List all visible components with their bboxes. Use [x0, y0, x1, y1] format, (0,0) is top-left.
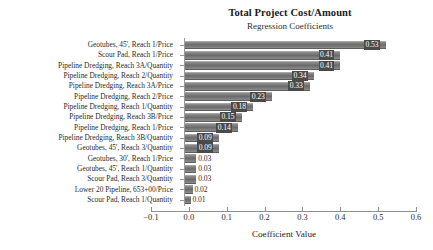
- x-axis-tick-label: 0.6: [411, 213, 421, 222]
- x-axis-tick: [416, 207, 417, 211]
- bar-value-label: 0.03: [198, 154, 211, 164]
- x-axis-tick-label: 0.3: [297, 213, 307, 222]
- x-axis-tick: [265, 207, 266, 211]
- bar-row[interactable]: 0.23: [151, 92, 416, 102]
- x-axis-tick: [378, 207, 379, 211]
- y-axis-tick: [180, 179, 184, 180]
- bar-value-label: 0.18: [231, 102, 247, 112]
- bar-value-label: 0.41: [319, 61, 335, 71]
- bar-value-label: 0.02: [195, 185, 208, 195]
- y-axis-tick: [180, 200, 184, 201]
- bar-row[interactable]: 0.03: [151, 164, 416, 174]
- x-axis-tick: [227, 207, 228, 211]
- bar-row[interactable]: 0.18: [151, 102, 416, 112]
- bar[interactable]: [185, 41, 386, 50]
- bar-row[interactable]: 0.34: [151, 71, 416, 81]
- bar-value-label: 0.53: [364, 40, 380, 50]
- y-axis-tick: [180, 117, 184, 118]
- plot-area: 0.530.410.410.340.330.230.180.150.140.09…: [151, 38, 416, 206]
- bar-row[interactable]: 0.53: [151, 40, 416, 50]
- chart-subtitle: Regression Coefficients: [155, 20, 425, 32]
- bar[interactable]: [185, 51, 340, 60]
- bar-row[interactable]: 0.41: [151, 61, 416, 71]
- bar-row[interactable]: 0.09: [151, 133, 416, 143]
- bar-row[interactable]: 0.03: [151, 154, 416, 164]
- bar-value-label: 0.03: [198, 174, 211, 184]
- x-axis-tick: [189, 207, 190, 211]
- x-axis-tick: [151, 207, 152, 211]
- y-axis-tick: [180, 55, 184, 56]
- regression-coefficients-bar-chart: Total Project Cost/Amount Regression Coe…: [0, 0, 433, 250]
- bar-value-label: 0.15: [220, 112, 236, 122]
- bar-row[interactable]: 0.14: [151, 123, 416, 133]
- y-axis-tick: [180, 76, 184, 77]
- x-axis-ticks: [151, 207, 417, 212]
- bar[interactable]: [185, 196, 191, 205]
- bar[interactable]: [185, 154, 196, 163]
- y-axis-tick: [180, 148, 184, 149]
- x-axis-title: Coefficient Value: [151, 229, 417, 239]
- x-axis-tick: [302, 207, 303, 211]
- y-axis-tick: [180, 158, 184, 159]
- bar-row[interactable]: 0.33: [151, 81, 416, 91]
- y-axis-tick: [180, 96, 184, 97]
- bar-value-label: 0.23: [250, 92, 266, 102]
- y-axis-tick: [180, 107, 184, 108]
- bar-row[interactable]: 0.01: [151, 195, 416, 205]
- bar-row[interactable]: 0.09: [151, 143, 416, 153]
- bar-row[interactable]: 0.41: [151, 50, 416, 60]
- x-axis-tick-label: 0.2: [259, 213, 269, 222]
- bar-value-label: 0.03: [198, 164, 211, 174]
- x-axis-tick: [340, 207, 341, 211]
- bar-value-label: 0.09: [197, 133, 213, 143]
- bar-value-label: 0.33: [288, 81, 304, 91]
- y-axis-tick: [180, 65, 184, 66]
- x-axis-tick-label: 0.4: [335, 213, 345, 222]
- x-axis-tick-label: 0.0: [184, 213, 194, 222]
- y-axis-tick: [180, 45, 184, 46]
- y-axis-tick: [180, 189, 184, 190]
- bar-rows: 0.530.410.410.340.330.230.180.150.140.09…: [151, 40, 416, 205]
- x-axis-tick-label: 0.1: [221, 213, 231, 222]
- bar-row[interactable]: 0.02: [151, 185, 416, 195]
- chart-title-block: Total Project Cost/Amount Regression Coe…: [155, 6, 425, 32]
- y-axis-tick: [180, 138, 184, 139]
- bar[interactable]: [185, 185, 193, 194]
- bar-value-label: 0.09: [197, 143, 213, 153]
- y-axis-tick: [180, 86, 184, 87]
- x-axis-tick-labels: −0.10.00.10.20.30.40.50.6: [151, 213, 417, 227]
- bar-value-label: 0.34: [292, 71, 308, 81]
- bar[interactable]: [185, 61, 340, 70]
- bar[interactable]: [185, 165, 196, 174]
- bar-value-label: 0.01: [193, 195, 206, 205]
- bar-row[interactable]: 0.03: [151, 174, 416, 184]
- bar-value-label: 0.14: [216, 123, 232, 133]
- y-axis-tick: [180, 169, 184, 170]
- bar-value-label: 0.41: [319, 50, 335, 60]
- x-axis-tick-label: 0.5: [373, 213, 383, 222]
- bar-row[interactable]: 0.15: [151, 112, 416, 122]
- y-axis-tick: [180, 127, 184, 128]
- bar[interactable]: [185, 175, 196, 184]
- chart-title: Total Project Cost/Amount: [155, 6, 425, 19]
- x-axis-tick-label: −0.1: [143, 213, 158, 222]
